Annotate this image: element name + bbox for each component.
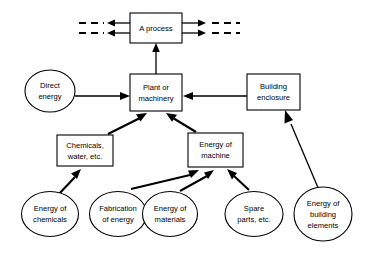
arrow-head-plant-to-process xyxy=(152,43,160,52)
energy-of-building-elements-label-line2: building xyxy=(310,210,336,219)
edge-process-output-lower xyxy=(182,30,240,37)
node-energy-of-materials[interactable]: Energy of materials xyxy=(143,192,198,237)
chemicals-water-label-line1: Chemicals, xyxy=(66,141,104,150)
building-enclosure-label-line1: Building xyxy=(260,82,287,91)
arrow-head-building-elements xyxy=(285,110,294,124)
node-direct-energy[interactable]: Direct energy xyxy=(25,70,75,112)
arrow-head-building-enclosure xyxy=(183,92,193,100)
building-enclosure-label-line2: enclosure xyxy=(257,93,290,102)
edge-building-enclosure-to-plant xyxy=(183,92,248,100)
plant-machinery-label-line2: machinery xyxy=(138,94,173,103)
plant-machinery-label-line1: Plant or xyxy=(143,83,170,92)
diagram-canvas: A process Plant or machinery Building en… xyxy=(0,0,372,254)
arrow-head-input-lower xyxy=(107,30,115,37)
energy-of-building-elements-label-line3: elements xyxy=(308,221,339,230)
edge-chemicals-to-plant xyxy=(108,113,147,134)
spare-parts-label-line1: Spare xyxy=(244,204,264,213)
arrow-shaft-chemicals-to-plant xyxy=(108,118,140,134)
fabrication-of-energy-ellipse[interactable] xyxy=(90,192,147,237)
energy-of-chemicals-label-line2: chemicals xyxy=(33,215,67,224)
energy-of-materials-label-line1: Energy of xyxy=(154,204,187,213)
edge-process-output-upper xyxy=(182,20,240,27)
arrow-shaft-energy-chemicals xyxy=(58,177,75,195)
node-spare-parts[interactable]: Spare parts, etc. xyxy=(225,192,283,237)
edge-building-elements-to-enclosure xyxy=(285,110,320,190)
node-chemicals-water[interactable]: Chemicals, water, etc. xyxy=(57,135,113,166)
edge-energy-chemicals-to-chemicals xyxy=(58,169,81,195)
spare-parts-label-line2: parts, etc. xyxy=(237,215,270,224)
arrow-shaft-machine-to-plant xyxy=(173,118,196,132)
node-a-process[interactable]: A process xyxy=(130,13,182,43)
energy-of-machine-label-line1: Energy of xyxy=(199,140,232,149)
direct-energy-label-line1: Direct xyxy=(40,81,61,90)
fabrication-of-energy-label-line2: of energy xyxy=(102,215,134,224)
energy-of-chemicals-ellipse[interactable] xyxy=(22,192,79,237)
a-process-label: A process xyxy=(139,24,173,33)
arrow-head-output-lower xyxy=(198,30,206,37)
arrow-shaft-materials xyxy=(180,176,207,191)
arrow-head-input-upper xyxy=(107,20,115,27)
arrow-shaft-spare-parts xyxy=(234,176,249,190)
arrow-shaft-fabrication xyxy=(131,175,190,189)
direct-energy-ellipse[interactable] xyxy=(25,70,75,112)
node-energy-of-machine[interactable]: Energy of machine xyxy=(188,133,243,167)
edge-spare-parts-to-machine xyxy=(227,169,249,190)
node-energy-of-building-elements[interactable]: Energy of building elements xyxy=(294,187,352,241)
arrow-head-output-upper xyxy=(198,20,206,27)
energy-of-chemicals-label-line1: Energy of xyxy=(34,204,67,213)
node-plant-machinery[interactable]: Plant or machinery xyxy=(130,74,182,111)
arrow-head-fabrication xyxy=(188,170,199,178)
edge-machine-energy-to-plant xyxy=(166,113,196,132)
edge-materials-to-machine xyxy=(180,170,214,191)
energy-of-materials-label-line2: materials xyxy=(155,215,186,224)
arrow-head-direct-energy xyxy=(120,92,130,100)
direct-energy-label-line2: energy xyxy=(38,92,61,101)
energy-of-building-elements-label-line1: Energy of xyxy=(307,199,340,208)
node-energy-of-chemicals[interactable]: Energy of chemicals xyxy=(22,192,79,237)
edge-process-input-lower xyxy=(79,30,130,37)
arrow-shaft-building-elements xyxy=(291,124,319,190)
fabrication-of-energy-label-line1: Fabrication xyxy=(99,204,137,213)
spare-parts-ellipse[interactable] xyxy=(225,192,283,237)
chemicals-water-label-line2: water, etc. xyxy=(67,152,103,161)
energy-of-machine-label-line2: machine xyxy=(201,151,230,160)
plant-machinery-box[interactable] xyxy=(130,74,182,111)
edge-process-input-upper xyxy=(79,20,130,27)
edge-plant-to-process xyxy=(152,43,160,74)
energy-flow-diagram: A process Plant or machinery Building en… xyxy=(0,0,372,254)
arrow-head-energy-chemicals xyxy=(71,169,81,179)
node-building-enclosure[interactable]: Building enclosure xyxy=(247,74,300,110)
building-enclosure-box[interactable] xyxy=(247,74,300,110)
energy-of-materials-ellipse[interactable] xyxy=(143,192,198,237)
node-fabrication-of-energy[interactable]: Fabrication of energy xyxy=(90,192,147,237)
edge-direct-energy-to-plant xyxy=(75,92,130,100)
